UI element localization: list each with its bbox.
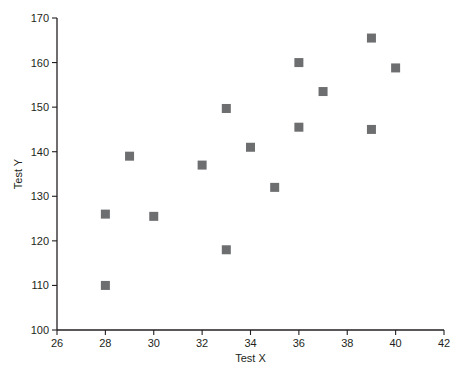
x-tick-label: 34 xyxy=(244,337,256,349)
x-tick-label: 38 xyxy=(341,337,353,349)
y-tick-label: 120 xyxy=(31,235,49,247)
scatter-plot-figure: 100110120130140150160170 262830323436384… xyxy=(0,0,464,376)
x-tick-label: 28 xyxy=(99,337,111,349)
data-point-marker xyxy=(101,210,110,219)
x-tick-label: 36 xyxy=(293,337,305,349)
y-tick-group: 100110120130140150160170 xyxy=(31,12,57,336)
x-axis: 262830323436384042 xyxy=(51,330,450,349)
x-tick-label: 40 xyxy=(390,337,402,349)
y-axis-title: Test Y xyxy=(12,158,24,189)
data-point-marker xyxy=(246,143,255,152)
y-tick-label: 110 xyxy=(31,279,49,291)
data-point-marker xyxy=(125,152,134,161)
data-point-marker xyxy=(294,58,303,67)
y-axis: 100110120130140150160170 xyxy=(31,12,57,336)
x-axis-title: Test X xyxy=(235,352,266,364)
x-tick-label: 26 xyxy=(51,337,63,349)
data-point-marker xyxy=(391,63,400,72)
y-tick-label: 130 xyxy=(31,190,49,202)
y-tick-label: 100 xyxy=(31,324,49,336)
x-tick-label: 30 xyxy=(148,337,160,349)
data-point-marker xyxy=(367,125,376,134)
data-point-group xyxy=(101,34,400,290)
x-tick-label: 42 xyxy=(438,337,450,349)
x-tick-label: 32 xyxy=(196,337,208,349)
data-point-marker xyxy=(367,34,376,43)
data-point-marker xyxy=(222,245,231,254)
y-tick-label: 160 xyxy=(31,57,49,69)
data-point-marker xyxy=(319,87,328,96)
x-tick-group: 262830323436384042 xyxy=(51,330,450,349)
data-point-marker xyxy=(149,212,158,221)
data-point-marker xyxy=(198,161,207,170)
data-point-marker xyxy=(270,183,279,192)
y-tick-label: 150 xyxy=(31,101,49,113)
data-point-marker xyxy=(101,281,110,290)
data-point-marker xyxy=(294,123,303,132)
y-tick-label: 170 xyxy=(31,12,49,24)
y-tick-label: 140 xyxy=(31,146,49,158)
data-point-marker xyxy=(222,104,231,113)
plot-canvas: 100110120130140150160170 262830323436384… xyxy=(0,0,464,376)
